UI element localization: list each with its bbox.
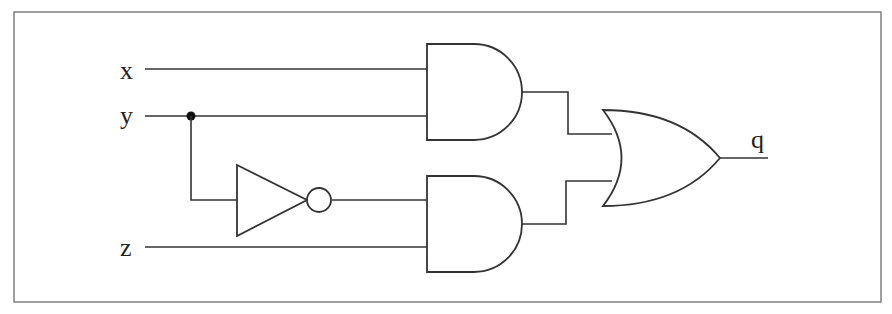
wire-and2-to-or: [522, 181, 612, 224]
not-gate: [237, 165, 307, 236]
input-label-z: z: [120, 233, 132, 262]
wire-and1-to-or: [522, 92, 612, 134]
and-gate-bottom: [427, 176, 522, 272]
wire-y-to-not: [191, 116, 237, 200]
input-label-y: y: [120, 101, 133, 130]
not-gate-bubble: [307, 188, 331, 212]
logic-circuit-diagram: x y z q: [0, 0, 892, 314]
and-gate-top: [427, 44, 522, 140]
output-label-q: q: [751, 125, 764, 154]
input-label-x: x: [120, 56, 133, 85]
or-gate: [603, 110, 720, 206]
